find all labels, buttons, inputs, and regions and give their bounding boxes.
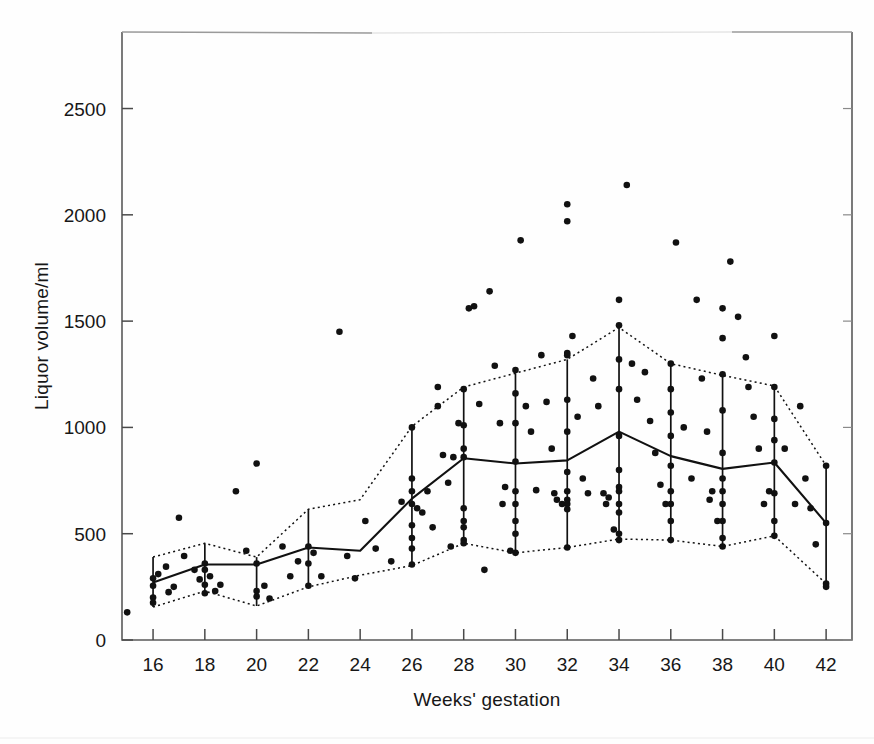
- y-tick-label: 2000: [64, 205, 106, 226]
- y-tick-label: 500: [74, 524, 106, 545]
- x-tick-label: 26: [401, 654, 422, 675]
- x-tick-label: 40: [764, 654, 785, 675]
- y-tick-label: 2500: [64, 99, 106, 120]
- x-tick-label: 20: [246, 654, 267, 675]
- x-tick-label: 38: [712, 654, 733, 675]
- x-tick-label: 42: [816, 654, 837, 675]
- x-tick-label: 24: [350, 654, 372, 675]
- x-tick-label: 28: [453, 654, 474, 675]
- y-tick-label: 0: [95, 630, 106, 651]
- x-tick-label: 36: [660, 654, 681, 675]
- scatter-plot: 0500100015002000250016182022242628303234…: [0, 0, 874, 744]
- figure-panel: 0500100015002000250016182022242628303234…: [0, 0, 874, 744]
- axis-ticks: 0500100015002000250016182022242628303234…: [64, 99, 852, 675]
- axis-labels: Weeks' gestation Liquor volume/ml: [31, 262, 560, 710]
- x-tick-label: 34: [608, 654, 630, 675]
- x-tick-label: 22: [298, 654, 319, 675]
- y-axis-title: Liquor volume/ml: [31, 262, 52, 410]
- x-tick-label: 18: [194, 654, 215, 675]
- x-axis-title: Weeks' gestation: [414, 689, 561, 710]
- y-tick-label: 1000: [64, 417, 106, 438]
- x-tick-label: 30: [505, 654, 526, 675]
- axis-frame: [122, 32, 852, 640]
- x-tick-label: 16: [142, 654, 163, 675]
- y-tick-label: 1500: [64, 311, 106, 332]
- x-tick-label: 32: [557, 654, 578, 675]
